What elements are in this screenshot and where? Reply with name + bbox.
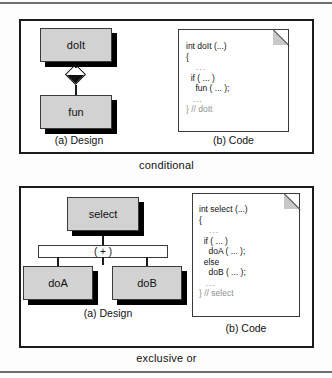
sub-caption-design-conditional: (a) Design [44,134,114,146]
page-rule-bottom [0,371,332,373]
connector-line-diamond-fun [75,85,77,95]
node-label-select: select [89,208,118,220]
sub-caption-code-conditional: (b) Code [178,134,289,146]
figure-caption-xor: exclusive or [19,352,314,364]
xor-plus-marker: ( + ) [92,246,114,257]
figure-page: doIt fun (a) Design int doIt (...) { ...… [0,0,332,378]
node-label-doa: doA [48,277,68,289]
code-block-xor: int select (...) { ... if ( ... ) doA ( … [199,204,248,299]
page-rule-top [0,2,332,4]
node-doit[interactable]: doIt [40,28,112,62]
node-fun[interactable]: fun [40,95,112,129]
sub-caption-code-xor: (b) Code [192,322,300,334]
node-label-doit: doIt [67,39,85,51]
node-label-fun: fun [68,106,83,118]
connector-line-junction-center [102,257,104,265]
node-label-dob: doB [137,277,157,289]
sub-caption-design-xor: (a) Design [68,307,148,319]
node-dob[interactable]: doB [112,266,182,300]
node-doa[interactable]: doA [23,266,93,300]
node-select[interactable]: select [67,197,139,231]
figure-caption-conditional: conditional [19,159,314,171]
code-block-conditional: int doIt (...) { ... if ( ... ) fun ( ..… [186,41,229,115]
